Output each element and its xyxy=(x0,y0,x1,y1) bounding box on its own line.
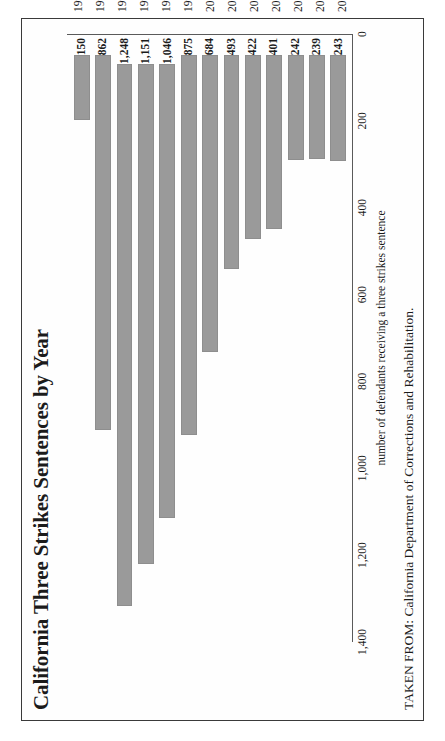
category-tick-label: 1995 xyxy=(94,0,106,12)
category-tick-label: 2003 xyxy=(270,0,282,12)
value-tick-label: 1,000 xyxy=(356,455,368,481)
bar-value-label: 493 xyxy=(225,38,237,55)
bar-value-label: 1,151 xyxy=(140,38,152,64)
bar-rect xyxy=(244,55,260,238)
bar-value-label: 684 xyxy=(204,38,216,55)
bar-rect xyxy=(223,55,239,269)
bar-rect xyxy=(202,55,218,352)
value-tick-label: 1,200 xyxy=(356,542,368,568)
bar-series: 1508621,2481,1511,0468756844934224012422… xyxy=(67,34,353,642)
bar-rect xyxy=(330,55,346,161)
bar-slot: 239 xyxy=(306,34,327,642)
bar-slot: 1,046 xyxy=(156,34,177,642)
bar-slot: 243 xyxy=(327,34,348,642)
bar-rect xyxy=(180,55,196,435)
value-tick-label: 1,400 xyxy=(356,629,368,655)
bar-slot: 1,151 xyxy=(135,34,156,642)
category-tick-label: 2006 xyxy=(336,0,348,12)
plot-area: 1508621,2481,1511,0468756844934224012422… xyxy=(67,34,353,642)
bar-slot: 1,248 xyxy=(113,34,134,642)
bar-rect xyxy=(266,55,282,229)
bar-slot: 150 xyxy=(71,34,92,642)
bar-value-label: 242 xyxy=(289,38,301,55)
bar-rect xyxy=(116,63,132,605)
bar-value-label: 239 xyxy=(311,38,323,55)
bar-value-label: 422 xyxy=(247,38,259,55)
category-tick-label: 1997 xyxy=(138,0,150,12)
value-tick-labels: 02004006008001,0001,2001,400 xyxy=(353,34,371,642)
category-tick-label: 2001 xyxy=(226,0,238,12)
page-frame: California Three Strikes Sentences by Ye… xyxy=(21,18,424,721)
bar-value-label: 1,046 xyxy=(161,38,173,64)
bar-rect xyxy=(95,55,111,429)
category-tick-label: 1998 xyxy=(160,0,172,12)
bar-slot: 401 xyxy=(263,34,284,642)
bar-value-label: 862 xyxy=(97,38,109,55)
bar-slot: 242 xyxy=(284,34,305,642)
bar-rect xyxy=(137,63,153,563)
bar-value-label: 875 xyxy=(182,38,194,55)
bar-chart-figure: California Three Strikes Sentences by Ye… xyxy=(23,20,423,720)
value-tick-label: 0 xyxy=(356,31,368,37)
category-tick-label: 1994 xyxy=(72,0,84,12)
bar-slot: 684 xyxy=(199,34,220,642)
value-tick-label: 200 xyxy=(356,112,368,129)
category-tick-label: 1999 xyxy=(182,0,194,12)
bar-rect xyxy=(159,63,175,517)
bar-rect xyxy=(287,55,303,160)
category-tick-label: 2004 xyxy=(292,0,304,12)
source-note: TAKEN FROM: California Department of Cor… xyxy=(401,307,417,709)
bar-value-label: 243 xyxy=(332,38,344,55)
bar-rect xyxy=(73,55,89,120)
bar-slot: 862 xyxy=(92,34,113,642)
category-tick-label: 2002 xyxy=(248,0,260,12)
category-tick-label: 2000 xyxy=(204,0,216,12)
bar-rect xyxy=(309,55,325,159)
bar-slot: 875 xyxy=(177,34,198,642)
bar-slot: 493 xyxy=(220,34,241,642)
chart-title: California Three Strikes Sentences by Ye… xyxy=(29,329,54,710)
bar-value-label: 401 xyxy=(268,38,280,55)
bar-slot: 422 xyxy=(242,34,263,642)
category-tick-label: 1996 xyxy=(116,0,128,12)
value-tick-label: 600 xyxy=(356,285,368,302)
value-axis-title: number of defendants receiving a three s… xyxy=(375,34,387,642)
rotated-figure-stage: California Three Strikes Sentences by Ye… xyxy=(23,20,423,720)
value-tick-label: 800 xyxy=(356,372,368,389)
value-tick-label: 400 xyxy=(356,199,368,216)
category-tick-label: 2005 xyxy=(314,0,326,12)
bar-value-label: 1,248 xyxy=(118,38,130,64)
bar-value-label: 150 xyxy=(75,38,87,55)
